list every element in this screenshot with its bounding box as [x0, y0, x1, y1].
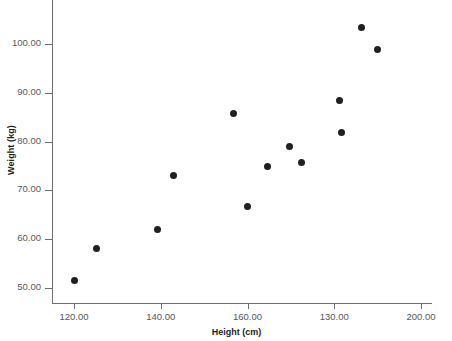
- x-tick-label-text: 200.00: [389, 311, 452, 322]
- data-point: [336, 97, 343, 104]
- x-tick-mark: [334, 303, 335, 309]
- data-point: [71, 277, 78, 284]
- y-tick-mark: [45, 288, 52, 289]
- x-tick-mark: [248, 303, 249, 309]
- data-point: [244, 203, 251, 210]
- y-tick-mark: [45, 142, 52, 143]
- data-point: [358, 24, 365, 31]
- y-tick-label-text: 80.00: [0, 135, 41, 146]
- x-tick-label-text: 160.00: [216, 311, 280, 322]
- y-tick-label-text: 90.00: [0, 86, 41, 97]
- data-point: [338, 129, 345, 136]
- x-tick-mark: [161, 303, 162, 309]
- x-tick-label-text: 130.00: [302, 311, 366, 322]
- y-tick-label-text: 100.00: [0, 37, 41, 48]
- x-tick-mark: [74, 303, 75, 309]
- y-tick-mark: [45, 44, 52, 45]
- plot-area: [52, 0, 421, 303]
- x-tick-label-text: 140.00: [129, 311, 193, 322]
- scatter-chart: Weight (kg) 50.0060.0070.0080.0090.00100…: [0, 0, 452, 341]
- data-point: [374, 46, 381, 53]
- data-point: [230, 110, 237, 117]
- y-tick-mark: [45, 93, 52, 94]
- y-tick-label-text: 60.00: [0, 232, 41, 243]
- y-tick-label-text: 50.00: [0, 281, 41, 292]
- y-tick-mark: [45, 239, 52, 240]
- x-axis-line: [52, 303, 432, 304]
- y-tick-mark: [45, 190, 52, 191]
- y-tick-label-text: 70.00: [0, 183, 41, 194]
- x-axis-title: Height (cm): [52, 327, 421, 337]
- x-tick-label-text: 120.00: [42, 311, 106, 322]
- x-tick-mark: [421, 303, 422, 309]
